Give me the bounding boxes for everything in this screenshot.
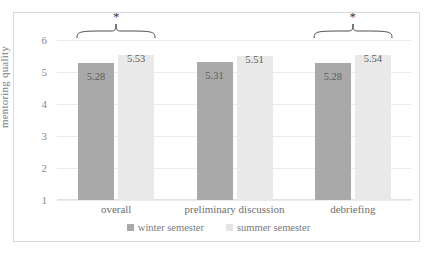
bar-summer-debriefing[interactable] — [355, 55, 391, 200]
bar-winter-debriefing[interactable] — [315, 63, 351, 200]
x-category-label-debriefing: debriefing — [263, 203, 437, 215]
bar-value-label: 5.51 — [237, 54, 273, 65]
bar-value-label: 5.28 — [78, 71, 114, 82]
legend-label-summer: summer semester — [237, 222, 310, 233]
y-tick-label-2: 2 — [23, 162, 47, 174]
curly-brace-icon — [76, 23, 156, 39]
bar-summer-preliminary[interactable] — [237, 56, 273, 200]
bar-winter-preliminary[interactable] — [197, 62, 233, 200]
chart-legend: winter semester summer semester — [0, 222, 437, 233]
y-tick-label-5: 5 — [23, 66, 47, 78]
legend-item-winter[interactable]: winter semester — [127, 222, 204, 233]
legend-swatch-summer-icon — [226, 224, 233, 231]
bar-chart-figure: mentoring quality 654321 5.285.535.315.5… — [0, 0, 437, 258]
legend-label-winter: winter semester — [138, 222, 204, 233]
curly-brace-icon — [313, 23, 393, 39]
y-axis-title: mentoring quality — [0, 46, 10, 128]
gridline-6 — [57, 40, 412, 41]
legend-item-summer[interactable]: summer semester — [226, 222, 310, 233]
plot-area: 5.285.535.315.515.285.54 — [57, 40, 412, 200]
bar-value-label: 5.28 — [315, 71, 351, 82]
legend-swatch-winter-icon — [127, 224, 134, 231]
significance-bracket-debriefing: * — [313, 12, 393, 38]
bar-value-label: 5.53 — [118, 53, 154, 64]
bar-value-label: 5.54 — [355, 53, 391, 64]
significance-bracket-overall: * — [76, 12, 156, 38]
gridline-1 — [57, 200, 412, 201]
significance-asterisk: * — [113, 12, 120, 22]
bar-summer-overall[interactable] — [118, 55, 154, 200]
y-tick-label-6: 6 — [23, 34, 47, 46]
bar-value-label: 5.31 — [197, 70, 233, 81]
y-tick-label-4: 4 — [23, 98, 47, 110]
significance-asterisk: * — [350, 12, 357, 22]
bar-winter-overall[interactable] — [78, 63, 114, 200]
y-tick-label-3: 3 — [23, 130, 47, 142]
